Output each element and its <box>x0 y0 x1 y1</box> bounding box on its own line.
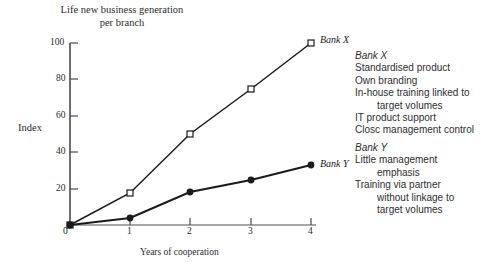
data-point-bank-x-4 <box>308 40 314 46</box>
data-point-bank-y-0 <box>67 222 74 229</box>
annotation-bank-x-line-4: IT product support <box>355 112 493 124</box>
series-label-bank-y: Bank Y <box>320 158 349 169</box>
x-axis-ticks <box>130 218 311 225</box>
annotation-bank-x-line-2: In-house training linked to <box>355 87 493 99</box>
annotation-bank-y-line-2: Training via partner <box>355 179 493 191</box>
annotation-bank-x-line-3: target volumes <box>355 100 493 112</box>
data-point-bank-y-2 <box>187 189 194 196</box>
annotation-bank-x-heading: Bank X <box>355 50 493 62</box>
y-axis-ticks <box>70 43 78 189</box>
annotation-bank-y-heading: Bank Y <box>355 142 493 154</box>
data-point-bank-x-1 <box>127 190 133 196</box>
series-label-bank-x: Bank X <box>320 34 349 45</box>
data-point-bank-y-3 <box>248 177 255 184</box>
annotation-bank-x-line-1: Own branding <box>355 75 493 87</box>
annotation-bank-y-line-1: emphasis <box>355 167 493 179</box>
chart-figure: Life new business generation per branch … <box>0 0 495 269</box>
annotation-bank-x-line-5: Closc management control <box>355 124 493 136</box>
annotation-bank-x-line-0: Standardised product <box>355 62 493 74</box>
annotation-bank-y-line-0: Little management <box>355 154 493 166</box>
annotation-bank-x: Bank X Standardised product Own branding… <box>355 50 493 137</box>
annotation-bank-y-line-4: target volumes <box>355 204 493 216</box>
data-point-bank-x-2 <box>187 131 193 137</box>
data-point-bank-y-4 <box>308 162 315 169</box>
data-point-bank-x-3 <box>248 86 254 92</box>
annotation-bank-y-line-3: without linkage to <box>355 192 493 204</box>
data-point-bank-y-1 <box>127 215 134 222</box>
annotation-bank-y: Bank Y Little management emphasis Traini… <box>355 142 493 216</box>
